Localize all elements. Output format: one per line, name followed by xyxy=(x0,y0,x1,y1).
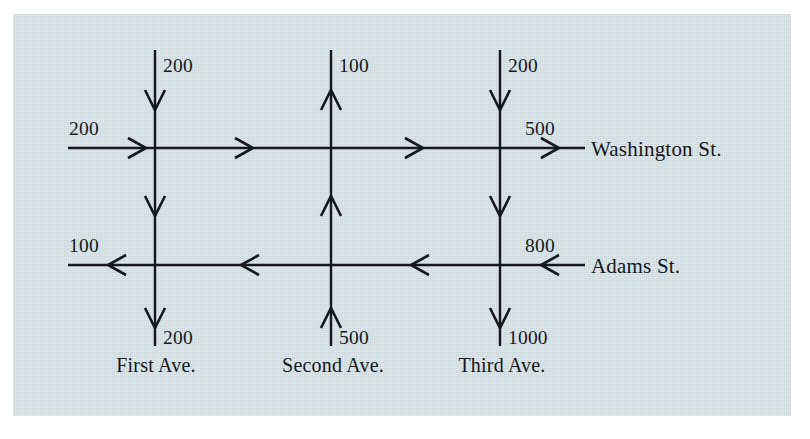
third-avenue-group xyxy=(490,50,510,346)
adams-street-group xyxy=(68,255,585,275)
adams-street-label: Adams St. xyxy=(591,254,680,278)
first-avenue-label: First Ave. xyxy=(116,354,195,376)
second-avenue-group xyxy=(321,50,341,346)
third-avenue-inbound-north-value: 200 xyxy=(508,55,538,76)
traffic-flow-diagram: 200 100 200 200 500 1000 200 500 100 800… xyxy=(13,14,791,416)
adams-inbound-east-value: 800 xyxy=(525,235,555,256)
washington-outbound-east-value: 500 xyxy=(525,118,555,139)
second-avenue-label: Second Ave. xyxy=(282,354,384,376)
washington-inbound-west-value: 200 xyxy=(69,118,99,139)
washington-street-label: Washington St. xyxy=(591,137,722,161)
adams-outbound-west-value: 100 xyxy=(69,235,99,256)
diagram-panel: 200 100 200 200 500 1000 200 500 100 800… xyxy=(13,14,791,416)
second-avenue-inbound-south-value: 500 xyxy=(339,327,369,348)
third-avenue-outbound-south-value: 1000 xyxy=(508,327,548,348)
second-avenue-outbound-north-value: 100 xyxy=(339,55,369,76)
figure-root: 200 100 200 200 500 1000 200 500 100 800… xyxy=(0,0,810,439)
first-avenue-group xyxy=(145,50,165,346)
first-avenue-outbound-south-value: 200 xyxy=(163,327,193,348)
washington-street-group xyxy=(68,138,585,158)
first-avenue-inbound-north-value: 200 xyxy=(163,55,193,76)
third-avenue-label: Third Ave. xyxy=(458,354,545,376)
